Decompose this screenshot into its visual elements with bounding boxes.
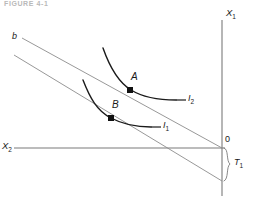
figure-container: FIGURE 4-1 X1 X2 0 b bbox=[0, 0, 253, 198]
upper-budget-line bbox=[22, 38, 222, 148]
tax-bracket-brace bbox=[224, 148, 230, 181]
indifference-curve-i2 bbox=[103, 48, 176, 100]
figure-drawing bbox=[0, 0, 253, 198]
x1-axis-label-subscript: 1 bbox=[232, 13, 236, 20]
x2-axis-label-subscript: 2 bbox=[8, 146, 12, 153]
lower-budget-line bbox=[14, 55, 222, 181]
budget-line-label-b: b bbox=[12, 32, 17, 41]
x1-axis-label: X1 bbox=[226, 8, 236, 20]
curve-label-i1-subscript: 1 bbox=[166, 125, 170, 132]
point-a-label: A bbox=[131, 72, 138, 82]
tax-bracket-label-subscript: 1 bbox=[240, 162, 244, 169]
point-b-label: B bbox=[112, 100, 119, 110]
tax-bracket-label: T1 bbox=[234, 158, 243, 169]
point-a-marker bbox=[127, 87, 133, 93]
x2-axis-label: X2 bbox=[2, 141, 12, 153]
curve-label-i1: I1 bbox=[163, 121, 169, 132]
curve-label-i2-subscript: 2 bbox=[191, 98, 195, 105]
curve-label-i2: I2 bbox=[188, 94, 194, 105]
origin-label: 0 bbox=[225, 135, 230, 144]
point-b-marker bbox=[108, 115, 114, 121]
